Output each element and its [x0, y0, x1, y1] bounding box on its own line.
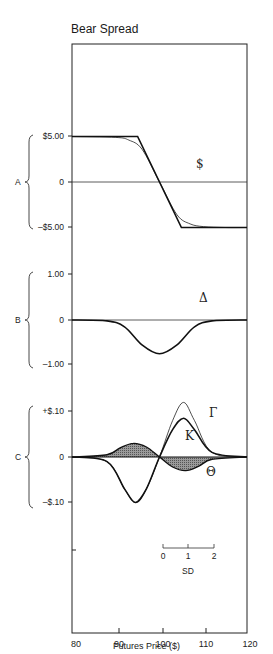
x-tick-110: 110 [199, 639, 213, 649]
panel-c: +$.10 0 –$.10 C Γ K Θ [15, 402, 247, 508]
panel-a-letter: A [15, 177, 21, 187]
panel-a-tick-zero: 0 [59, 177, 64, 187]
panel-b-tick-bottom: –1.00 [43, 359, 65, 369]
delta-curve [72, 320, 247, 354]
theta-glyph: Θ [206, 465, 216, 479]
vega-curve [72, 418, 247, 502]
x-axis-title: Futures Price ($) [113, 641, 180, 651]
sd-scale: 0 1 2 SD [161, 544, 217, 576]
chart-canvas: $5.00 0 –$5.00 A $ 1.00 0 –1.00 B Δ +$.1… [0, 0, 273, 654]
sd-tick-0: 0 [161, 551, 166, 561]
panel-b: 1.00 0 –1.00 B Δ [15, 269, 247, 369]
x-tick-80: 80 [71, 639, 81, 649]
panel-c-tick-zero: 0 [59, 452, 64, 462]
panel-b-tick-zero: 0 [59, 315, 64, 325]
plot-frame [72, 44, 247, 633]
sd-tick-1: 1 [186, 551, 191, 561]
dollar-glyph: $ [196, 157, 204, 171]
panel-a-brace [25, 135, 33, 229]
delta-glyph: Δ [199, 291, 208, 305]
panel-b-brace [25, 272, 33, 368]
panel-b-letter: B [15, 315, 21, 325]
sd-tick-2: 2 [212, 551, 217, 561]
kappa-glyph: K [185, 429, 195, 443]
panel-a-tick-top: $5.00 [43, 131, 65, 141]
x-tick-120: 120 [242, 639, 257, 649]
panel-c-letter: C [15, 452, 21, 462]
panel-a-tick-bottom: –$5.00 [38, 222, 64, 232]
sd-label: SD [182, 566, 194, 576]
gamma-glyph: Γ [209, 406, 217, 420]
panel-a: $5.00 0 –$5.00 A $ [15, 131, 247, 232]
panel-c-tick-top: +$.10 [42, 406, 64, 416]
panel-b-tick-top: 1.00 [47, 269, 64, 279]
gamma-curve [72, 402, 247, 502]
panel-c-tick-bottom: –$.10 [43, 497, 65, 507]
panel-c-brace [25, 406, 33, 508]
